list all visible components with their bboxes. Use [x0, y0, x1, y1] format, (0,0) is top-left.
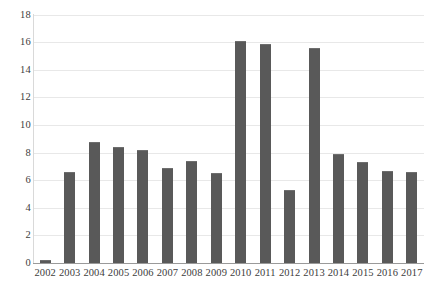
bar — [284, 190, 295, 263]
bar — [89, 142, 100, 263]
bar — [186, 161, 197, 263]
bars-layer: 2002200320042005200620072008200920102011… — [33, 0, 424, 287]
bar — [211, 173, 222, 263]
y-axis-tick-label: 0 — [1, 258, 31, 268]
bar — [406, 172, 417, 263]
y-axis-tick-labels: 024681012141618 — [0, 0, 31, 287]
y-axis-tick-label: 14 — [1, 65, 31, 75]
bar — [382, 171, 393, 263]
bar — [309, 48, 320, 263]
y-axis-tick-label: 12 — [1, 92, 31, 102]
bar — [64, 172, 75, 263]
bar — [235, 41, 246, 263]
bar — [137, 150, 148, 263]
y-axis-tick-label: 10 — [1, 120, 31, 130]
bar — [333, 154, 344, 263]
bar-chart: 024681012141618 200220032004200520062007… — [0, 0, 433, 287]
y-axis-tick-label: 6 — [1, 175, 31, 185]
bar — [260, 44, 271, 264]
bar — [357, 162, 368, 263]
bar — [40, 260, 51, 263]
bar — [162, 168, 173, 263]
y-axis-tick-label: 2 — [1, 230, 31, 240]
y-axis-tick-label: 18 — [1, 10, 31, 20]
y-axis-tick-label: 4 — [1, 203, 31, 213]
y-axis-tick-label: 8 — [1, 148, 31, 158]
bar — [113, 147, 124, 263]
y-axis-tick-label: 16 — [1, 37, 31, 47]
x-axis-tick-label: 2017 — [395, 267, 429, 279]
